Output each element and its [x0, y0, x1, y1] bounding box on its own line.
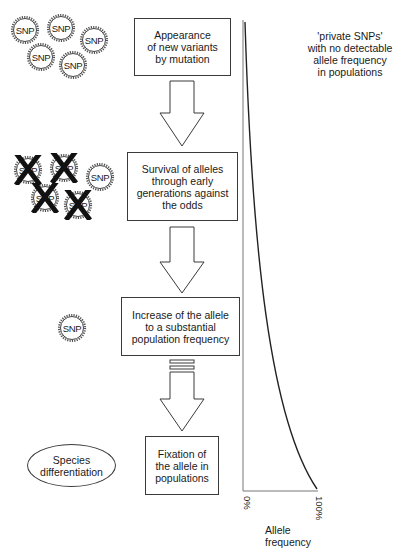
x-tick-100: 100% [314, 496, 325, 520]
allele-frequency-chart [0, 0, 399, 549]
x-tick-0: 0% [242, 496, 253, 510]
x-axis-label: Allele frequency [265, 524, 325, 548]
frequency-curve [245, 22, 317, 489]
